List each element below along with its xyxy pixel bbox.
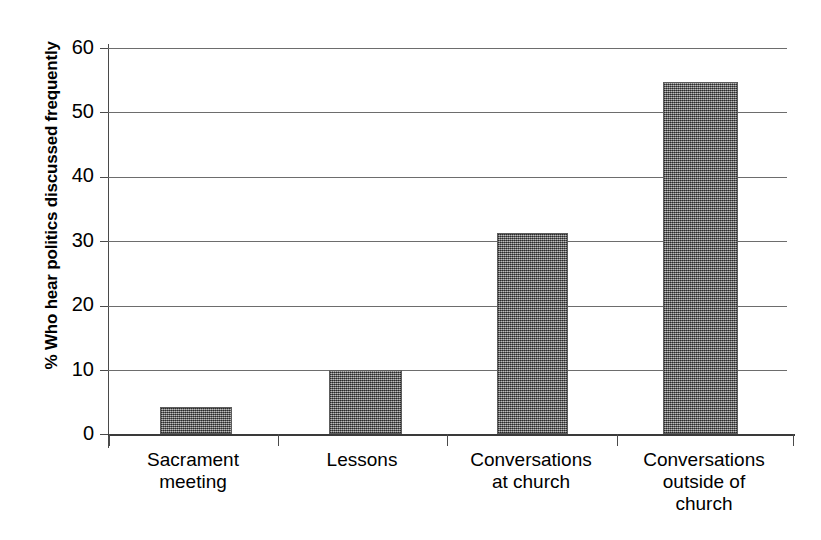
x-tick-mark-2 (447, 434, 448, 446)
y-tick-label-30: 30 (30, 230, 94, 250)
y-tick-label-10: 10 (30, 359, 94, 379)
x-category-label-line: meeting (105, 471, 281, 493)
x-category-label-line: outside of (616, 471, 792, 493)
x-tick-mark-0 (109, 434, 110, 446)
bar-sacrament-meeting (160, 407, 232, 434)
y-tick-label-0: 0 (30, 423, 94, 443)
x-category-label-sacrament-meeting: Sacrament meeting (105, 449, 281, 493)
x-axis-line (108, 434, 795, 436)
x-category-label-line: at church (443, 471, 619, 493)
bar-conversations-at-church (497, 233, 568, 434)
y-tick-label-50: 50 (30, 101, 94, 121)
x-tick-mark-3 (617, 434, 618, 446)
y-tick-label-60: 60 (30, 37, 94, 57)
y-axis-tick-labels: 60 50 40 30 20 10 0 (22, 0, 94, 540)
gridline-60 (108, 48, 787, 49)
bar-lessons (329, 370, 402, 434)
bar-chart-figure: % Who hear politics discussed frequently… (0, 0, 821, 540)
y-tick-label-20: 20 (30, 294, 94, 314)
x-tick-mark-4 (793, 434, 794, 446)
x-category-label-line: Sacrament (105, 449, 281, 471)
x-category-label-line: Conversations (616, 449, 792, 471)
x-category-label-conversations-outside-church: Conversations outside of church (616, 449, 792, 515)
bar-conversations-outside-church (663, 82, 738, 434)
x-category-label-lessons: Lessons (274, 449, 450, 471)
x-tick-mark-1 (278, 434, 279, 446)
x-category-label-line: Lessons (274, 449, 450, 471)
plot-area (108, 48, 787, 434)
x-category-label-line: church (616, 493, 792, 515)
x-category-label-conversations-at-church: Conversations at church (443, 449, 619, 493)
x-category-label-line: Conversations (443, 449, 619, 471)
y-tick-label-40: 40 (30, 165, 94, 185)
